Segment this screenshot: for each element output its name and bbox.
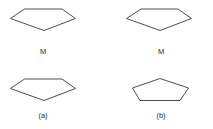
- label-top-right-m: M: [118, 48, 204, 56]
- label-top-left-m: M: [0, 48, 86, 56]
- label-bottom-right-b: (b): [118, 112, 204, 120]
- figure-canvas: [0, 0, 213, 129]
- figure-background: [0, 0, 213, 129]
- label-bottom-left-a: (a): [0, 112, 86, 120]
